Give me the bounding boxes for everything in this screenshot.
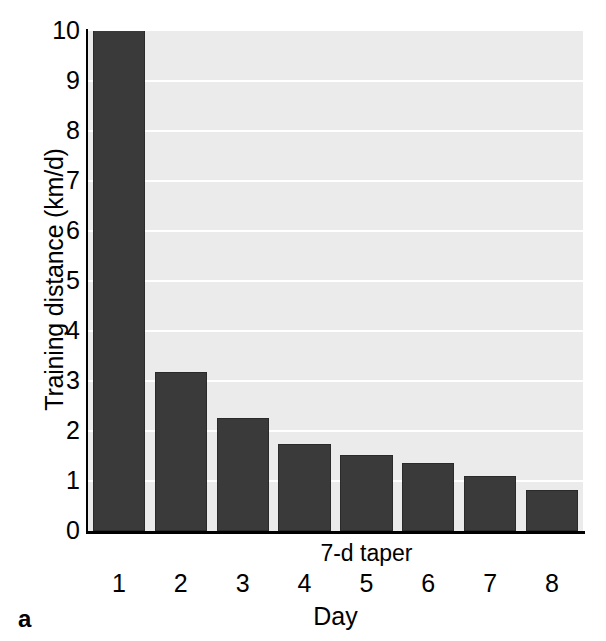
y-tick-label: 7 <box>14 168 80 193</box>
y-axis-tick-labels: 109876543210 <box>14 0 80 560</box>
x-tick-label: 8 <box>545 570 559 596</box>
x-tick-label: 5 <box>359 570 373 596</box>
taper-annotation-text: 7-d taper <box>313 540 419 566</box>
taper-annotation-label: 7-d taper <box>181 541 552 565</box>
y-tick-label: 6 <box>14 218 80 243</box>
y-tick-label: 1 <box>14 468 80 493</box>
x-tick-label: 4 <box>298 570 312 596</box>
bar-day-5 <box>340 455 392 531</box>
bar-day-7 <box>464 476 516 531</box>
bar-series <box>88 31 583 531</box>
y-tick-label: 8 <box>14 118 80 143</box>
x-tick-label: 7 <box>483 570 497 596</box>
x-tick-label: 2 <box>174 570 188 596</box>
bar-day-6 <box>402 463 454 531</box>
figure-panel-a: Training distance (km/d) 109876543210 7-… <box>0 0 606 641</box>
plot-area <box>88 31 583 531</box>
y-tick-label: 10 <box>14 18 80 43</box>
panel-label: a <box>18 606 31 632</box>
y-tick-label: 4 <box>14 318 80 343</box>
x-axis-line <box>86 531 585 534</box>
bar-day-3 <box>217 418 269 531</box>
x-axis-tick-labels: 12345678 <box>88 570 583 598</box>
y-tick-label: 0 <box>14 518 80 543</box>
y-tick-label: 5 <box>14 268 80 293</box>
bar-day-8 <box>526 490 578 531</box>
x-axis-title: Day <box>88 602 583 631</box>
bar-day-1 <box>93 31 145 531</box>
y-tick-label: 9 <box>14 68 80 93</box>
bar-day-4 <box>278 444 330 531</box>
y-tick-label: 2 <box>14 418 80 443</box>
taper-annotation: 7-d taper <box>181 541 552 567</box>
x-tick-label: 3 <box>236 570 250 596</box>
x-tick-label: 6 <box>421 570 435 596</box>
y-tick-label: 3 <box>14 368 80 393</box>
x-tick-label: 1 <box>112 570 126 596</box>
bar-day-2 <box>155 372 207 531</box>
